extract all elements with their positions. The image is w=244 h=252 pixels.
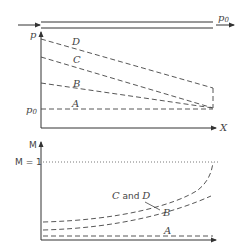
x-axis-label: X	[219, 122, 228, 133]
mach-curve-b	[43, 196, 211, 230]
mach-one-label: M = 1	[15, 157, 42, 167]
c-and-d-leader-line	[145, 202, 160, 210]
outlet-pressure-label: p0	[218, 12, 229, 24]
curve-label-d: D	[71, 36, 80, 47]
mach-curve-label-b: B	[162, 207, 170, 218]
curve-label-c-and-d: C and D	[112, 190, 150, 201]
curve-label-c: C	[73, 54, 81, 65]
p0-reference-label: p0	[26, 104, 37, 116]
pressure-curve-c	[41, 57, 213, 108]
pressure-curve-b	[41, 83, 213, 108]
pressure-curve-d	[41, 39, 213, 88]
pressure-mach-diagram: p0 p X p0 D C B A M M = 1 C and D B A	[0, 0, 244, 252]
mach-curve-label-a: A	[163, 225, 171, 236]
curve-label-a: A	[71, 98, 79, 109]
flow-channel: p0	[18, 12, 234, 28]
mach-plot: M M = 1 C and D B A	[15, 140, 218, 240]
pressure-axis-label: p	[30, 29, 37, 40]
mach-axis-label: M	[29, 140, 37, 150]
pressure-plot: p X p0 D C B A	[26, 29, 228, 133]
curve-label-b: B	[72, 78, 80, 89]
